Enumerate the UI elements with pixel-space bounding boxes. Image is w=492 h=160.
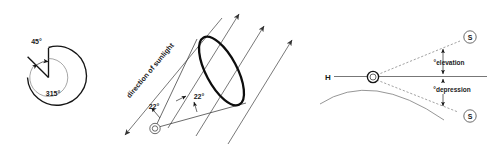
cone-edge-lower	[155, 103, 246, 128]
label-direction-of-sunlight: direction of sunlight	[124, 41, 176, 100]
panel-halo-cone: 22° 22° direction of sunlight	[124, 14, 292, 144]
sunlight-ray-2	[196, 26, 264, 136]
angle-22-right-tick	[194, 102, 197, 112]
label-angle-45: 45°	[31, 38, 42, 45]
panel-angle-circle: 45° 315°	[28, 38, 87, 106]
label-elevation: °elevation	[434, 59, 465, 66]
label-horizon-h: H	[325, 73, 331, 82]
angle-22-right-arrow	[176, 96, 186, 101]
label-sun-upper: S	[468, 34, 473, 41]
label-angle-315: 315°	[46, 90, 61, 97]
sun-marker-lower: S	[464, 110, 477, 123]
label-depression: °depression	[433, 86, 470, 94]
figure-container: 45° 315° 22° 22°	[0, 0, 492, 160]
line-of-sight-depression	[373, 79, 458, 113]
label-angle-22-left: 22°	[149, 103, 160, 110]
panel-elevation-depression: °elevation °depression H S S	[320, 31, 487, 123]
observer-marker-horizon	[367, 71, 379, 83]
label-sun-lower: S	[468, 113, 473, 120]
sunlight-ray-3	[228, 40, 292, 144]
earth-curve	[320, 90, 444, 120]
radius-45-degrees	[28, 57, 49, 78]
scientific-diagram-svg: 45° 315° 22° 22°	[0, 0, 492, 160]
angle-22-left-arrow	[152, 108, 161, 118]
label-angle-22-right: 22°	[194, 93, 205, 100]
sun-marker-upper: S	[464, 31, 477, 44]
observer-marker-cone	[150, 123, 161, 134]
angle-45-arc-arrow	[37, 62, 48, 65]
